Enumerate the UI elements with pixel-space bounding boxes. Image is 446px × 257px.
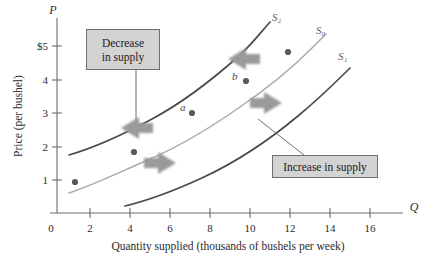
curve-label-s0: S₀ [316, 24, 326, 36]
callout-increase-in-supply[interactable]: Increase in supply [272, 155, 378, 178]
callout-increase-text: Increase in supply [283, 160, 367, 174]
curve-s1 [125, 68, 350, 206]
x-tick-label-0: 0 [48, 222, 54, 234]
x-tick-label-10: 10 [245, 222, 257, 234]
increase-arrow-lower [144, 152, 176, 174]
data-point [131, 149, 137, 155]
x-tick-label-6: 6 [167, 222, 173, 234]
y-tick-label-3: 3 [43, 107, 49, 119]
chart-canvas: $5 4 3 2 1 0 2 4 6 8 10 12 14 16 P Q Pri… [0, 0, 446, 257]
y-tick-label-4: 4 [43, 74, 49, 86]
point-label-a: a [180, 101, 186, 113]
y-axis-title: Price (per bushel) [12, 75, 25, 157]
x-tick-label-8: 8 [207, 222, 213, 234]
callout-decrease-text: Decrease in supply [102, 36, 145, 64]
x-tick-label-14: 14 [325, 222, 337, 234]
y-tick-label-2: 2 [43, 141, 49, 153]
supply-shift-chart: $5 4 3 2 1 0 2 4 6 8 10 12 14 16 P Q Pri… [0, 0, 446, 257]
data-point [285, 49, 291, 55]
y-tick-label-5: $5 [37, 40, 49, 52]
curve-label-s2: S₂ [272, 11, 282, 23]
x-axis-title: Quantity supplied (thousands of bushels … [111, 240, 344, 253]
data-point [72, 179, 78, 185]
data-point-a [189, 110, 195, 116]
x-axis-symbol: Q [410, 200, 419, 214]
x-tick-label-4: 4 [127, 222, 133, 234]
x-tick-label-12: 12 [285, 222, 296, 234]
x-tick-label-2: 2 [87, 222, 93, 234]
curve-label-s1: S₁ [338, 50, 348, 62]
x-tick-label-16: 16 [365, 222, 377, 234]
decrease-arrow-upper [228, 48, 260, 70]
increase-leader-line [258, 119, 304, 155]
y-axis-symbol: P [48, 3, 57, 17]
data-point-b [243, 78, 249, 84]
callout-decrease-in-supply[interactable]: Decrease in supply [86, 29, 160, 70]
point-label-b: b [232, 70, 238, 82]
y-tick-label-1: 1 [43, 174, 49, 186]
increase-arrow-upper [250, 92, 282, 114]
